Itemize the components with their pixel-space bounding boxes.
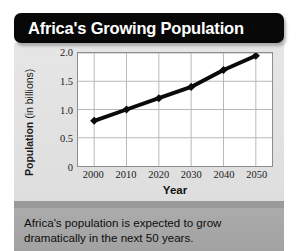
y-tick-label: 0.5 [33,133,73,144]
y-axis-label-wrap: Population (in billions) [10,43,30,183]
y-tick-label: 0 [33,162,73,173]
x-tick-label: 2050 [235,169,279,180]
plot-area [77,52,273,167]
chart-panel: Population (in billions) 00.51.01.52.0 2… [14,43,284,201]
figure-africa-population: Africa's Growing Population Population (… [0,0,297,251]
x-axis-ticks: 200020102020203020402050 [77,169,273,185]
y-tick-label: 1.0 [33,104,73,115]
y-axis-ticks: 00.51.01.52.0 [32,52,73,167]
y-tick-label: 1.5 [33,75,73,86]
title-banner: Africa's Growing Population [14,13,284,43]
data-series-line [78,53,272,166]
x-axis-label: Year [77,184,273,196]
y-tick-label: 2.0 [33,47,73,58]
caption-text: Africa's population is expected to grow … [24,215,274,245]
page-title: Africa's Growing Population [28,19,244,38]
caption-block: Africa's population is expected to grow … [14,208,284,251]
separator-bar [14,201,284,208]
